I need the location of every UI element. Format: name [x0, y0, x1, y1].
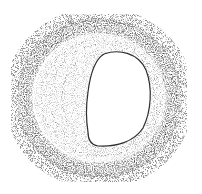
lumen-opening: [87, 52, 151, 146]
sketch-canvas: [0, 0, 202, 194]
vessel-cross-section-drawing: [0, 0, 202, 194]
